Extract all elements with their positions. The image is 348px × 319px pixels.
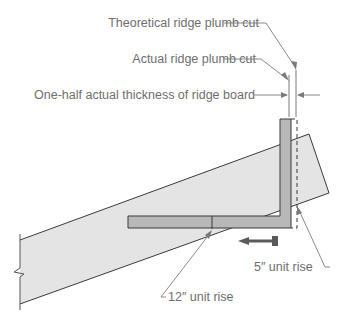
arrowhead-actual <box>281 72 289 81</box>
arrowhead-half-right <box>297 92 304 98</box>
arrowhead-theoretical <box>291 61 297 70</box>
arrowhead-half-left <box>281 92 288 98</box>
label-theoretical-ridge-plumb-cut: Theoretical ridge plumb cut <box>108 17 259 30</box>
label-5-unit-rise: 5″ unit rise <box>254 261 313 274</box>
arrowhead-5-rise <box>297 206 302 215</box>
label-actual-ridge-plumb-cut: Actual ridge plumb cut <box>132 53 256 66</box>
label-half-thickness-ridge-board: One-half actual thickness of ridge board <box>34 89 255 102</box>
direction-arrow-left <box>238 236 278 246</box>
label-12-unit-rise: 12″ unit rise <box>168 291 234 304</box>
leader-5-unit-rise <box>298 208 330 267</box>
